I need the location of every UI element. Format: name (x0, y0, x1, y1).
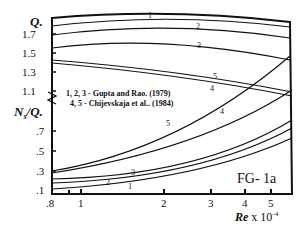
curve-label: 5 (213, 72, 217, 81)
upper-curves (52, 19, 292, 96)
curve-label: 4 (210, 84, 214, 93)
x-tick-label: 2 (161, 197, 167, 209)
curve-label: 1 (148, 11, 152, 20)
x-axis-label: Re x 10-4 (234, 210, 279, 224)
curve-5-lower (52, 56, 290, 171)
legend-entry: 1, 2, 3 - Gupta and Rao. (1979) (66, 89, 171, 98)
y-tick-label: 1.7 (22, 28, 36, 40)
x-tick-label: 3 (208, 197, 214, 209)
y-tick-label: 1.3 (22, 66, 36, 78)
y-tick-label: 1.1 (22, 85, 36, 97)
curve-3-upper (52, 43, 290, 60)
curve-2-upper (52, 28, 290, 38)
curve-1-upper (52, 19, 290, 27)
y-tick-label: .1 (36, 184, 44, 196)
curve-label: 5 (166, 119, 170, 128)
y-axis-label-top: Q. (30, 14, 43, 29)
y-axis-label-bottom: Ns/Q. (13, 104, 43, 121)
x-tick-label: .8 (46, 197, 55, 209)
curve-label: 4 (220, 107, 224, 116)
y-tick-label: .5 (36, 145, 45, 157)
y-tick-label: .7 (36, 125, 45, 137)
curve-label: 1 (128, 182, 132, 191)
axis-break-icon (48, 92, 56, 104)
x-tick-label: 5 (268, 197, 274, 209)
y-tick-label: .3 (36, 165, 45, 177)
curve-label: 3 (197, 41, 201, 50)
legend-entry: 4, 5 - Chijevskaja et al.. (1984) (70, 99, 174, 108)
curve-label: 2 (106, 178, 110, 187)
curve-label: 3 (131, 168, 135, 177)
x-tick-label: 1 (78, 197, 84, 209)
chart-figure: Q. 1.7 1.5 1.3 1.1 Ns/Q. .7 .5 .3 .1 .8 … (0, 0, 306, 236)
figure-tag: FG- 1a (237, 171, 277, 186)
y-tick-label: 1.5 (22, 47, 36, 59)
x-tick-label: 4 (242, 197, 248, 209)
curve-label: 2 (196, 22, 200, 31)
